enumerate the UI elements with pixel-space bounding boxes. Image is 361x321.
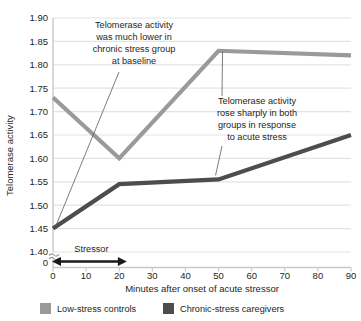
x-tick-label-20: 20 (114, 270, 125, 281)
y-tick-label-1.75: 1.75 (30, 83, 49, 94)
telomerase-activity-chart: 1.401.451.501.551.601.651.701.751.801.85… (0, 0, 361, 321)
x-tick-label-10: 10 (81, 270, 92, 281)
y-tick-label-1.80: 1.80 (30, 59, 49, 70)
x-tick-label-40: 40 (180, 270, 191, 281)
x-tick-label-0: 0 (50, 270, 55, 281)
x-tick-label-50: 50 (213, 270, 224, 281)
y-tick-label-1.85: 1.85 (30, 36, 49, 47)
legend-swatch-chronic-stress-caregivers (163, 303, 174, 314)
y-tick-label-1.45: 1.45 (30, 223, 49, 234)
y-tick-label-1.40: 1.40 (30, 246, 49, 257)
x-tick-label-80: 80 (313, 270, 324, 281)
y-tick-label-1.60: 1.60 (30, 153, 49, 164)
annotation-acute-line-4: to acute stress (227, 132, 287, 142)
y-tick-label-1.50: 1.50 (30, 200, 49, 211)
annotation-baseline-line-4: at baseline (112, 56, 156, 66)
annotation-acute-line-1: Telomerase activity (218, 96, 297, 106)
annotation-baseline-line-1: Telomerase activity (95, 20, 174, 30)
chart-svg: 1.401.451.501.551.601.651.701.751.801.85… (0, 0, 361, 321)
stressor-label: Stressor (74, 244, 108, 254)
y-tick-label-1.70: 1.70 (30, 106, 49, 117)
annotation-acute-line-2: rose sharply in both (217, 108, 297, 118)
y-tick-label-1.90: 1.90 (30, 12, 49, 23)
annotation-baseline-line-2: was much lower in (95, 32, 172, 42)
x-tick-label-30: 30 (147, 270, 158, 281)
y-tick-label-1.65: 1.65 (30, 129, 49, 140)
x-tick-label-60: 60 (246, 270, 257, 281)
y-origin-label: 0 (43, 257, 48, 268)
x-tick-label-90: 90 (346, 270, 357, 281)
annotation-acute-leader-line-upper (222, 52, 223, 96)
annotation-baseline-line-3: chronic stress group (93, 44, 176, 54)
x-axis-title: Minutes after onset of acute stressor (125, 283, 279, 294)
legend-label-chronic-stress-caregivers: Chronic-stress caregivers (180, 304, 285, 314)
x-tick-label-70: 70 (279, 270, 290, 281)
annotation-acute-line-3: groups in response (218, 120, 296, 130)
legend-swatch-low-stress-controls (40, 303, 51, 314)
legend-label-low-stress-controls: Low-stress controls (57, 304, 137, 314)
y-axis-title: Telomerase activity (4, 115, 15, 196)
y-tick-label-1.55: 1.55 (30, 176, 49, 187)
